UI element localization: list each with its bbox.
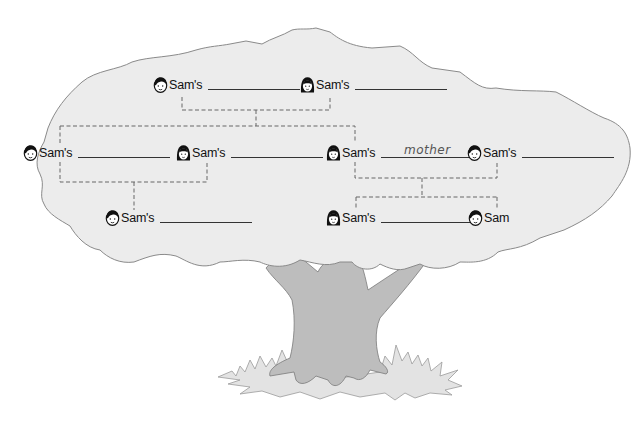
person-label: Sam	[484, 210, 509, 226]
person-label: Sam's	[342, 145, 375, 161]
girl-face-icon	[326, 144, 341, 161]
person-grandfather: Sam's	[153, 75, 300, 93]
girl-face-icon	[176, 144, 191, 161]
person-sister: Sam's	[326, 208, 473, 226]
answer-blank-sister[interactable]	[381, 208, 473, 223]
person-aunt: Sam's	[176, 143, 323, 161]
answer-blank-grandfather[interactable]	[208, 75, 300, 90]
person-label: Sam's	[121, 210, 154, 226]
answer-blank-mother[interactable]: mother	[381, 143, 473, 158]
person-grandmother: Sam's	[300, 75, 447, 93]
person-label: Sam's	[169, 77, 202, 93]
girl-face-icon	[326, 209, 341, 226]
girl-face-icon	[300, 76, 315, 93]
person-father: Sam's	[467, 143, 614, 161]
person-label: Sam's	[39, 145, 72, 161]
person-label: Sam's	[192, 145, 225, 161]
boy-face-icon	[153, 76, 168, 93]
boy-face-icon	[105, 209, 120, 226]
person-mother: Sam's mother	[326, 143, 473, 161]
answer-blank-cousin[interactable]	[160, 208, 252, 223]
answer-blank-grandmother[interactable]	[355, 75, 447, 90]
tree-illustration	[0, 0, 642, 427]
answer-blank-father[interactable]	[522, 143, 614, 158]
person-label: Sam's	[316, 77, 349, 93]
person-self-sam: Sam	[468, 208, 509, 226]
boy-face-icon	[23, 144, 38, 161]
answer-blank-aunt[interactable]	[231, 143, 323, 158]
answer-blank-uncle[interactable]	[78, 143, 170, 158]
person-label: Sam's	[483, 145, 516, 161]
person-label: Sam's	[342, 210, 375, 226]
handwritten-answer: mother	[381, 143, 473, 157]
person-uncle: Sam's	[23, 143, 170, 161]
boy-face-icon	[467, 144, 482, 161]
boy-face-icon	[468, 209, 483, 226]
person-cousin: Sam's	[105, 208, 252, 226]
